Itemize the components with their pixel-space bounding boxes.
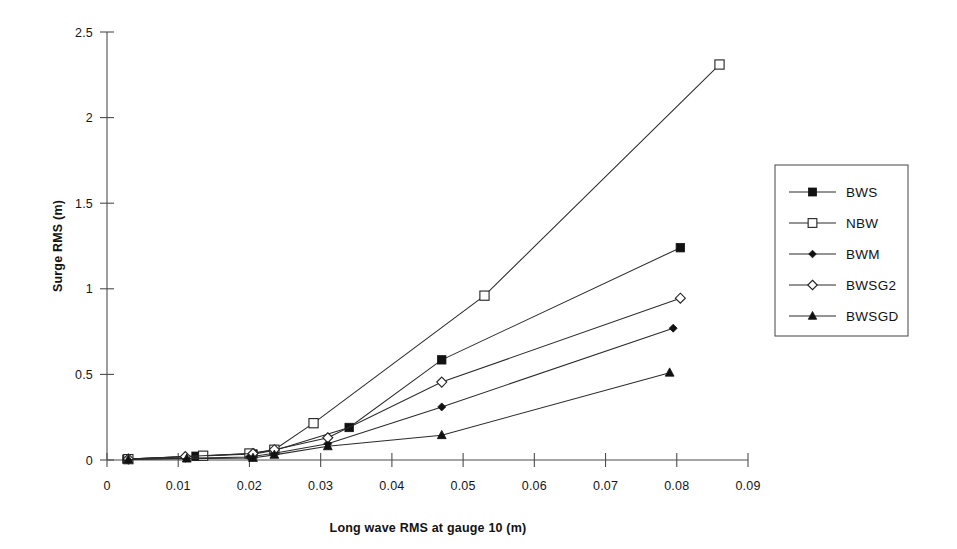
x-tick-label: 0.09 <box>735 479 760 493</box>
legend-label: BWSGD <box>846 309 899 324</box>
data-point-filled-square <box>438 356 446 364</box>
legend-label: BWM <box>846 247 880 262</box>
y-tick-label: 1.5 <box>75 197 93 211</box>
chart-legend: BWSNBWBWMBWSG2BWSGD <box>775 165 908 336</box>
legend-item-nbw[interactable]: NBW <box>789 216 878 231</box>
legend-item-bws[interactable]: BWS <box>789 185 878 200</box>
data-point-filled-square <box>676 244 684 252</box>
y-tick-label: 0 <box>86 454 93 468</box>
data-point-filled-diamond <box>438 403 446 411</box>
x-tick-label: 0.03 <box>308 479 333 493</box>
data-point-filled-triangle <box>808 311 816 319</box>
x-tick-label: 0.02 <box>237 479 262 493</box>
data-point-open-diamond <box>808 280 818 290</box>
y-axis-ticks: 00.511.522.5 <box>75 26 114 468</box>
surge-rms-chart: 00.511.522.5 00.010.020.030.040.050.060.… <box>0 0 957 549</box>
data-point-filled-triangle <box>665 368 674 376</box>
data-point-open-diamond <box>437 377 447 387</box>
y-tick-label: 1 <box>86 282 93 296</box>
y-axis-label: Surge RMS (m) <box>51 200 65 292</box>
x-tick-label: 0.06 <box>522 479 547 493</box>
data-point-open-square <box>808 219 817 228</box>
series-nbw <box>124 60 724 464</box>
data-point-filled-diamond <box>809 250 817 258</box>
y-tick-label: 0.5 <box>75 368 93 382</box>
series-layer <box>123 60 724 464</box>
y-tick-label: 2.5 <box>75 26 93 40</box>
series-bwsgd <box>124 368 674 463</box>
x-axis-label: Long wave RMS at gauge 10 (m) <box>330 521 527 535</box>
data-point-open-square <box>715 60 724 69</box>
data-point-filled-square <box>809 188 817 196</box>
legend-label: BWSG2 <box>846 278 896 293</box>
x-tick-label: 0.01 <box>166 479 191 493</box>
data-point-open-diamond <box>675 293 685 303</box>
data-point-open-square <box>309 419 318 428</box>
x-tick-label: 0 <box>103 479 110 493</box>
x-tick-label: 0.04 <box>379 479 404 493</box>
legend-label: NBW <box>846 216 878 231</box>
legend-item-bwsgd[interactable]: BWSGD <box>789 309 899 324</box>
legend-item-bwsg2[interactable]: BWSG2 <box>789 278 896 293</box>
legend-label: BWS <box>846 185 878 200</box>
x-tick-label: 0.07 <box>593 479 618 493</box>
y-tick-label: 2 <box>86 111 93 125</box>
legend-item-bwm[interactable]: BWM <box>789 247 880 262</box>
data-point-filled-diamond <box>669 324 677 332</box>
data-point-open-square <box>480 291 489 300</box>
x-tick-label: 0.05 <box>451 479 476 493</box>
x-tick-label: 0.08 <box>664 479 689 493</box>
